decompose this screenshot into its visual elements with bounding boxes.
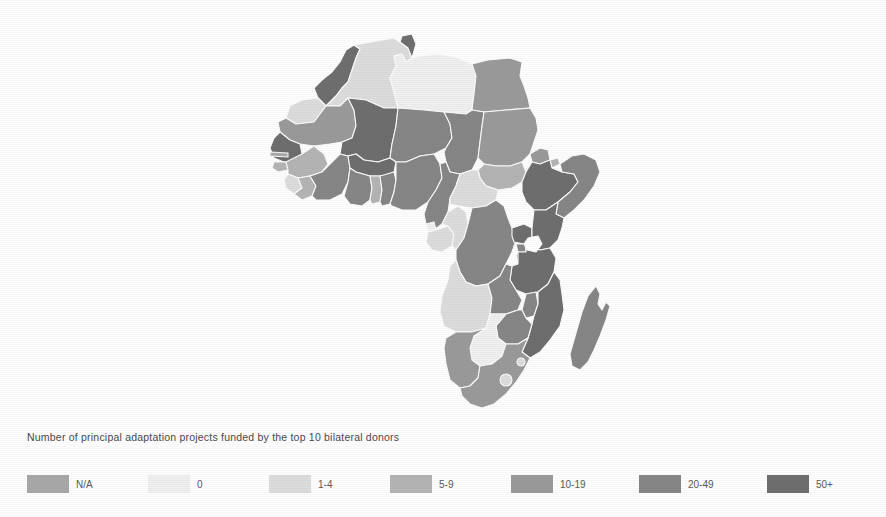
legend-item-5-9[interactable]: 5-9 <box>390 474 487 494</box>
country-guinea-bissau[interactable] <box>272 162 288 172</box>
legend-item-1-4[interactable]: 1-4 <box>269 474 366 494</box>
country-egypt[interactable] <box>472 58 530 112</box>
legend-label-1-4: 1-4 <box>318 479 332 490</box>
legend-swatch-20-49 <box>639 475 681 493</box>
legend: Number of principal adaptation projects … <box>27 430 867 500</box>
legend-item-0[interactable]: 0 <box>148 474 245 494</box>
legend-swatch-10-19 <box>511 475 553 493</box>
country-chad[interactable] <box>444 110 484 174</box>
country-sudan[interactable] <box>478 108 538 166</box>
legend-swatch-na <box>27 475 69 493</box>
country-eswatini[interactable] <box>517 358 525 366</box>
figure-choropleth-africa: Number of principal adaptation projects … <box>0 0 886 517</box>
legend-label-50plus: 50+ <box>816 479 833 490</box>
africa-map-svg[interactable] <box>244 14 644 424</box>
legend-item-na[interactable]: N/A <box>27 474 124 494</box>
legend-label-0: 0 <box>197 479 203 490</box>
legend-item-20-49[interactable]: 20-49 <box>639 474 743 494</box>
legend-swatch-5-9 <box>390 475 432 493</box>
legend-swatch-50plus <box>767 475 809 493</box>
legend-label-5-9: 5-9 <box>439 479 453 490</box>
legend-title: Number of principal adaptation projects … <box>27 430 867 444</box>
legend-label-20-49: 20-49 <box>688 479 714 490</box>
africa-map[interactable] <box>244 14 644 424</box>
country-libya[interactable] <box>390 54 476 114</box>
legend-swatch-0 <box>148 475 190 493</box>
country-niger[interactable] <box>390 108 452 162</box>
legend-item-50plus[interactable]: 50+ <box>767 474 864 494</box>
legend-swatch-1-4 <box>269 475 311 493</box>
country-madagascar[interactable] <box>570 286 610 370</box>
legend-label-na: N/A <box>76 479 93 490</box>
country-gambia[interactable] <box>270 152 288 157</box>
country-lesotho[interactable] <box>500 374 512 386</box>
legend-items: N/A 0 1-4 5-9 10-19 20-49 <box>27 474 864 494</box>
legend-label-10-19: 10-19 <box>560 479 586 490</box>
legend-item-10-19[interactable]: 10-19 <box>511 474 615 494</box>
